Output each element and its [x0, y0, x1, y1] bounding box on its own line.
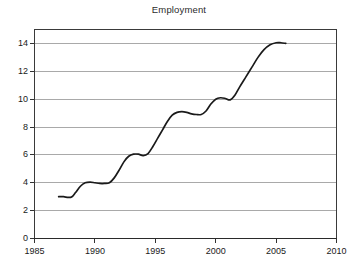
data-series-group — [59, 43, 286, 198]
employment-line-chart: Employment 02468101214 19851990199520002… — [0, 0, 358, 269]
plot-frame — [34, 30, 337, 239]
chart-plot-area — [0, 0, 358, 269]
series-line-0 — [59, 43, 286, 198]
gridline-group — [35, 43, 337, 210]
